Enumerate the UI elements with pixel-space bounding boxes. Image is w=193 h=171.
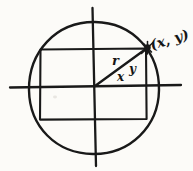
radius-label: r: [112, 53, 120, 68]
y-leg-label: y: [128, 62, 137, 76]
diagram-canvas: r y x (x, y): [0, 0, 193, 171]
point-label: (x, y): [148, 26, 190, 53]
x-leg-label: x: [116, 70, 125, 84]
paper-speck: [53, 96, 57, 99]
circle-diagram: r y x (x, y): [0, 0, 193, 171]
